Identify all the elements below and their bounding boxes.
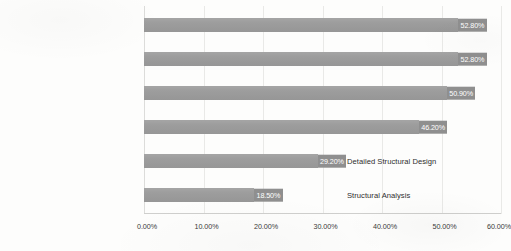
bar-row: Structural Analysis 18.50% [0, 178, 501, 212]
category-label: Structural Analysis [347, 191, 491, 200]
bar[interactable] [144, 120, 419, 134]
x-axis-tick-label: 60.00% [487, 222, 511, 231]
x-axis-line [144, 213, 501, 214]
bar-row: Conceptual Structural Design 46.20% [0, 110, 501, 144]
bar[interactable] [144, 18, 458, 32]
bar-row: Structural Optimisation 50.90% [0, 76, 501, 110]
x-axis-tick-label: 50.00% [432, 222, 456, 231]
bar[interactable] [144, 188, 254, 202]
x-axis-tick-label: 40.00% [373, 222, 397, 231]
bar-row: Structural Design Automation 52.80% [0, 42, 501, 76]
category-label: Detailed Structural Design [347, 157, 491, 166]
x-axis-tick-label: 0.00% [137, 222, 157, 231]
gridline-6 [501, 6, 502, 214]
bar-value-label: 52.80% [458, 19, 487, 32]
x-axis-tick-label: 20.00% [254, 222, 278, 231]
bar-row: Detailed Structural Design 29.20% [0, 144, 501, 178]
x-axis-tick-label: 10.00% [194, 222, 218, 231]
x-axis-tick-label: 30.00% [313, 222, 337, 231]
bar-value-label: 50.90% [447, 87, 476, 100]
bar-row: Interoperation with other disciplines 52… [0, 8, 501, 42]
bar-value-label: 46.20% [419, 121, 448, 134]
bar-value-label: 18.50% [254, 189, 283, 202]
bar-value-label: 52.80% [458, 53, 487, 66]
bar[interactable] [144, 86, 447, 100]
bar-value-label: 29.20% [318, 155, 347, 168]
bar[interactable] [144, 52, 458, 66]
bar[interactable] [144, 154, 318, 168]
